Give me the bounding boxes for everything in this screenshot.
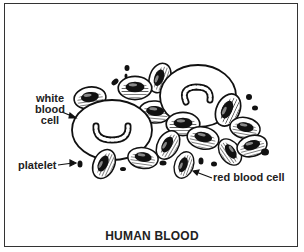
blood-illustration (0, 0, 304, 252)
red-blood-cell (118, 76, 152, 99)
platelet-label: platelet (18, 160, 57, 171)
diagram-caption: HUMAN BLOOD (0, 229, 304, 243)
red-blood-cell-label: red blood cell (213, 172, 285, 183)
white-blood-cell-label: white blood cell (30, 93, 70, 126)
label-line-3: cell (30, 115, 70, 126)
